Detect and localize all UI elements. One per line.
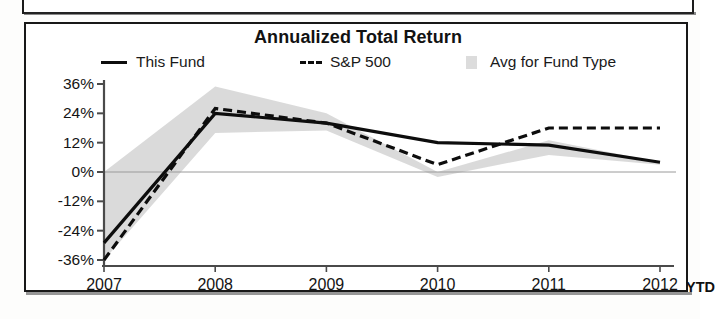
x-axis-tick-label: 2008 xyxy=(197,276,233,294)
annualized-total-return-chart-card: Annualized Total Return This Fund S&P 50… xyxy=(24,22,688,292)
x-axis-tick-label: 2011 xyxy=(532,276,566,294)
x-axis-tick-label: 2009 xyxy=(309,276,345,294)
ytd-annotation: YTD xyxy=(686,279,715,295)
x-axis-tick-label: 2007 xyxy=(86,276,122,294)
x-axis-tick-labels: 200720082009201020112012 xyxy=(26,24,690,294)
x-axis-tick-label: 2012 xyxy=(642,276,678,294)
x-axis-tick-label: 2010 xyxy=(420,276,456,294)
upper-panel-shadow xyxy=(24,12,696,15)
